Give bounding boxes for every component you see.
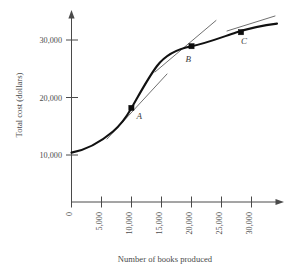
x-axis-title: Number of books produced [118,254,213,264]
y-axis-title: Total cost (dollars) [14,72,24,137]
x-tick-label-15000: 15,000 [155,212,164,235]
tangent-line-b [155,21,216,73]
x-axis [72,197,285,208]
y-axis [66,10,78,202]
cost-curve-plot: A B C 30,000 20,000 10,000 0 5,000 10,00… [0,0,299,269]
x-tick-label-30000: 30,000 [245,212,254,235]
marker-point-c [238,30,243,35]
tangent-lines [107,16,275,139]
x-tick-label-25000: 25,000 [215,212,224,235]
point-label-a: A [136,111,143,121]
data-point-markers [129,30,244,111]
x-tick-label-20000: 20,000 [185,212,194,235]
marker-point-b [189,44,194,49]
x-tick-label-5000: 5,000 [95,212,104,230]
point-label-b: B [186,54,192,64]
y-tick-label-10000: 10,000 [39,151,62,160]
x-axis-arrowhead [276,199,285,205]
x-tick-label-10000: 10,000 [125,212,134,235]
y-axis-arrowhead [68,10,74,19]
y-tick-label-30000: 30,000 [39,36,62,45]
y-tick-label-20000: 20,000 [39,94,62,103]
x-tick-label-0: 0 [65,212,74,216]
point-label-c: C [241,36,248,46]
marker-point-a [129,105,134,110]
chart-figure: A B C 30,000 20,000 10,000 0 5,000 10,00… [0,0,299,269]
